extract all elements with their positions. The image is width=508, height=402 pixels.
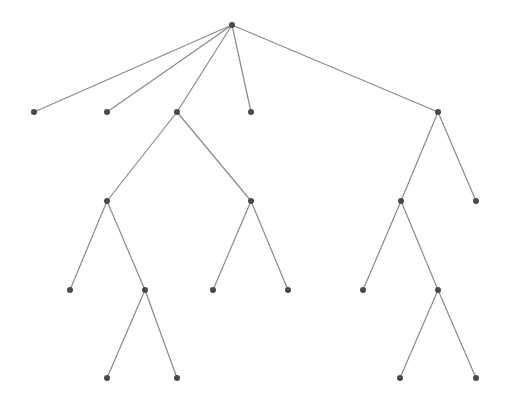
tree-node bbox=[142, 287, 148, 293]
tree-nodes bbox=[31, 22, 479, 381]
tree-edge bbox=[145, 290, 177, 378]
tree-edge bbox=[363, 201, 401, 290]
tree-node bbox=[174, 375, 180, 381]
tree-node bbox=[435, 287, 441, 293]
tree-edge bbox=[213, 201, 251, 290]
tree-edge bbox=[107, 201, 145, 290]
tree-edge bbox=[401, 201, 438, 290]
tree-edge bbox=[232, 25, 251, 112]
tree-node bbox=[174, 109, 180, 115]
tree-node bbox=[248, 109, 254, 115]
tree-edges bbox=[34, 25, 476, 378]
tree-edge bbox=[401, 112, 438, 201]
tree-node bbox=[210, 287, 216, 293]
tree-node bbox=[104, 198, 110, 204]
tree-node bbox=[360, 287, 366, 293]
tree-node bbox=[104, 375, 110, 381]
tree-edge bbox=[107, 112, 177, 201]
tree-node bbox=[473, 375, 479, 381]
tree-edge bbox=[438, 290, 476, 378]
tree-edge bbox=[70, 201, 107, 290]
tree-node bbox=[67, 287, 73, 293]
tree-node bbox=[435, 109, 441, 115]
tree-edge bbox=[251, 201, 288, 290]
tree-node bbox=[104, 109, 110, 115]
tree-edge bbox=[177, 112, 251, 201]
tree-edge bbox=[107, 25, 232, 112]
tree-node bbox=[473, 198, 479, 204]
tree-edge bbox=[177, 25, 232, 112]
tree-node bbox=[398, 198, 404, 204]
tree-edge bbox=[107, 290, 145, 378]
tree-edge bbox=[438, 112, 476, 201]
tree-edge bbox=[34, 25, 232, 112]
tree-edge bbox=[232, 25, 438, 112]
tree-node bbox=[248, 198, 254, 204]
tree-node bbox=[229, 22, 235, 28]
tree-node bbox=[397, 375, 403, 381]
tree-node bbox=[31, 109, 37, 115]
tree-diagram bbox=[0, 0, 508, 402]
tree-edge bbox=[400, 290, 438, 378]
tree-node bbox=[285, 287, 291, 293]
